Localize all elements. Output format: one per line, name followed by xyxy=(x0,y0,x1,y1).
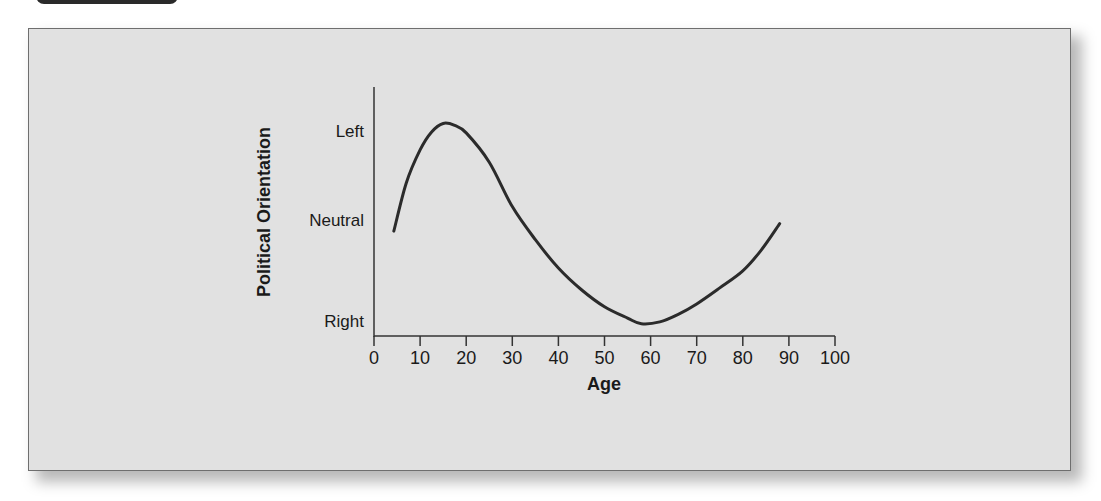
x-tick-label: 50 xyxy=(594,348,614,368)
orientation-curve xyxy=(394,123,780,324)
y-axis-title: Political Orientation xyxy=(254,127,274,297)
x-tick-label: 0 xyxy=(369,348,379,368)
x-tick-label: 90 xyxy=(779,348,799,368)
y-tick-label-left: Left xyxy=(336,122,365,141)
x-tick-label: 80 xyxy=(733,348,753,368)
y-tick-label-right: Right xyxy=(324,312,364,331)
x-tick-label: 60 xyxy=(641,348,661,368)
chart: Political Orientation Left Neutral Right… xyxy=(0,0,1101,501)
x-tick-label: 30 xyxy=(502,348,522,368)
x-tick-label: 20 xyxy=(456,348,476,368)
x-axis-title: Age xyxy=(587,374,621,394)
y-tick-label-neutral: Neutral xyxy=(309,211,364,230)
x-tick-label: 100 xyxy=(820,348,850,368)
x-tick-label: 70 xyxy=(687,348,707,368)
x-axis-ticks: 0102030405060708090100 xyxy=(369,336,850,368)
x-tick-label: 10 xyxy=(410,348,430,368)
x-tick-label: 40 xyxy=(548,348,568,368)
